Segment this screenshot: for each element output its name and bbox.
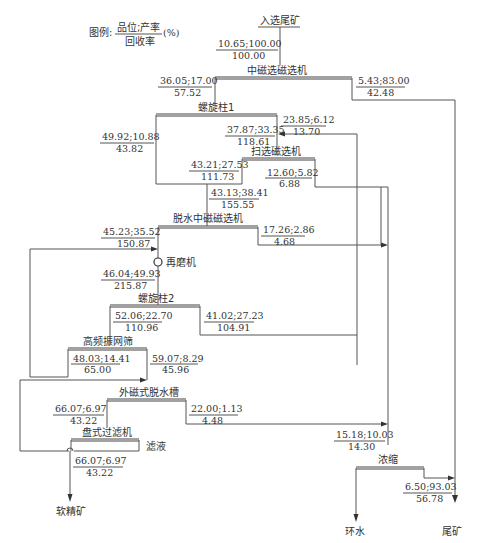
legend-numerator: 品位;产率 [117, 21, 160, 33]
unit-disc-filter: 盘式过滤机 [82, 426, 132, 438]
feed-label: 入选尾矿 [260, 14, 300, 26]
unit-medium-mag: 中磁选磁选机 [247, 64, 307, 76]
unit-dewater-mag: 脱水中磁磁选机 [173, 212, 243, 224]
filter-out-bottom: 43.22 [86, 467, 113, 478]
filter-out-top: 66.07;6.97 [75, 455, 127, 466]
dw-feed-top: 43.13;38.41 [211, 187, 269, 198]
product-return-water: 环水 [345, 526, 365, 537]
dw-tail-top: 17.26;2.86 [263, 224, 315, 235]
sp1-tail-bottom: 13.70 [293, 126, 320, 137]
product-concentrate: 软精矿 [56, 505, 86, 517]
dw-conc-bottom: 150.87 [117, 238, 150, 249]
product-tailings: 尾矿 [442, 525, 462, 537]
legend-unit: (%) [163, 27, 179, 38]
screen-under-bottom: 45.96 [162, 364, 189, 375]
regrind-out-top: 46.04;49.93 [103, 268, 161, 279]
sp1-feed-top: 37.87;33.35 [227, 124, 285, 135]
dw-feed-bottom: 155.55 [221, 199, 254, 210]
thick-over-top: 6.50;93.03 [405, 481, 457, 492]
unit-hf-screen: 高频振网筛 [83, 335, 133, 347]
unit-regrind: 再磨机 [166, 256, 196, 268]
thick-feed-bottom: 14.30 [348, 441, 375, 452]
flowsheet-diagram: 图例: 品位;产率 回收率 (%) 入选尾矿 10.65;100.00 100.… [0, 0, 480, 543]
filtrate-label: 滤液 [146, 440, 166, 452]
legend: 图例: 品位;产率 回收率 (%) [89, 21, 179, 47]
screen-over-top: 48.03;14.41 [73, 353, 131, 364]
sp1-left-bottom: 43.82 [116, 143, 143, 154]
ext-conc-top: 66.07;6.97 [55, 403, 107, 414]
unit-thickener: 浓缩 [378, 453, 398, 465]
legend-denominator: 回收率 [125, 35, 155, 47]
regrind-out-bottom: 215.87 [114, 280, 147, 291]
thick-over-bottom: 56.78 [416, 493, 443, 504]
feed-bottom: 100.00 [232, 50, 265, 61]
unit-spiral2: 螺旋柱2 [138, 292, 174, 304]
dw-conc-top: 45.23;35.52 [103, 226, 161, 237]
sp2-conc-top: 52.06;22.70 [115, 310, 173, 321]
mm-tail-top: 5.43;83.00 [358, 75, 410, 86]
feed-top: 10.65;100.00 [218, 38, 282, 49]
regrind-mill-icon [154, 258, 162, 266]
sp2-tail-bottom: 104.91 [217, 322, 250, 333]
screen-under-top: 59.07;8.29 [152, 353, 204, 364]
unit-ext-dewater: 外磁式脱水槽 [119, 386, 179, 398]
thick-feed-top: 15.18;10.03 [336, 429, 394, 440]
mm-conc-bottom: 57.52 [174, 87, 201, 98]
scav-tail-bottom: 6.88 [279, 178, 300, 189]
ext-tail-bottom: 4.48 [202, 415, 223, 426]
sp1-tail-top: 23.85;6.12 [283, 114, 335, 125]
scav-tail-top: 12.60;5.82 [267, 167, 319, 178]
unit-scav-mag: 扫选磁选机 [251, 145, 301, 157]
scav-conc-top: 43.21;27.53 [191, 159, 249, 170]
scav-conc-bottom: 111.73 [201, 171, 234, 182]
unit-spiral1: 螺旋柱1 [198, 101, 234, 113]
sp2-tail-top: 41.02;27.23 [206, 310, 264, 321]
legend-prefix: 图例: [89, 26, 112, 38]
screen-over-bottom: 65.00 [84, 364, 111, 375]
sp2-conc-bottom: 110.96 [125, 322, 158, 333]
mm-tail-bottom: 42.48 [367, 87, 394, 98]
ext-conc-bottom: 43.22 [70, 415, 97, 426]
ext-tail-top: 22.00;1.13 [191, 403, 243, 414]
mm-conc-top: 36.05;17.00 [160, 75, 218, 86]
dw-tail-bottom: 4.68 [274, 236, 295, 247]
sp1-left-top: 49.92;10.88 [102, 131, 160, 142]
